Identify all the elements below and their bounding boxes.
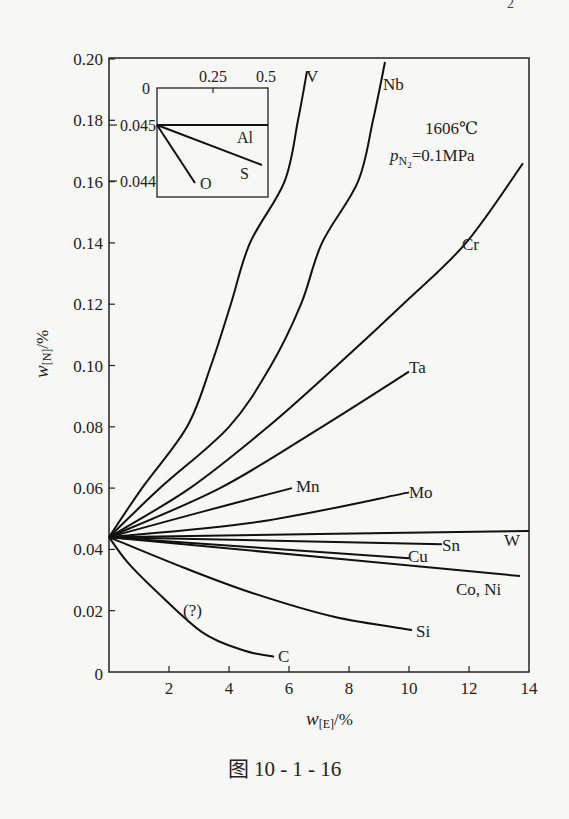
figure-caption: 图 10 - 1 - 16 [0, 752, 569, 782]
x-tick-label: 14 [521, 679, 539, 698]
label-v: V [306, 67, 319, 86]
pressure-sub: N [399, 154, 408, 168]
inset-x-tick-05: 0.5 [256, 68, 276, 85]
y-tick-label: 0.16 [73, 173, 103, 192]
x-tick-label: 2 [165, 679, 174, 698]
x-axis-label: w[E]/% [306, 708, 353, 731]
label-sn: Sn [442, 536, 460, 555]
curve-c [109, 537, 274, 657]
label-cu: Cu [408, 547, 428, 566]
label-si: Si [416, 622, 430, 641]
y-label-w: w [31, 365, 52, 378]
y-tick-label: 0.08 [73, 418, 103, 437]
y-tick-label: 0.06 [73, 479, 103, 498]
y-label-sub: [N] [40, 349, 54, 366]
x-label-w: w [306, 708, 319, 729]
y-tick-label: 0.10 [73, 357, 103, 376]
y-label-rest: /% [33, 330, 52, 349]
label-mo: Mo [409, 483, 433, 502]
label-c: C [278, 647, 289, 666]
y-tick-label: 0.20 [73, 50, 103, 69]
x-tick-label: 10 [401, 679, 418, 698]
x-tick-label: 12 [461, 679, 478, 698]
label-ta: Ta [409, 358, 426, 377]
inset-x-tick-025: 0.25 [199, 68, 227, 85]
y-tick-label: 0.18 [73, 111, 103, 130]
label-w: W [504, 531, 521, 550]
annotation-temperature: 1606℃ [425, 119, 478, 138]
inset-y-tick-0045: 0.045 [120, 117, 156, 134]
y-axis-label: w[N]/% [31, 330, 54, 378]
curve-mo [109, 492, 409, 537]
inset-chart: 0 0.25 0.5 0.045 0.044 Al S O [109, 68, 276, 197]
origin-label: 0 [95, 665, 104, 684]
x-tick-label: 6 [285, 679, 294, 698]
annotation-pressure: pN2=0.1MPa [389, 146, 475, 170]
y-tick-label: 0.12 [73, 295, 103, 314]
y-tick-label: 0.14 [73, 234, 103, 253]
pressure-p: p [389, 146, 399, 165]
label-coni: Co, Ni [456, 580, 502, 599]
chart: 0.020.040.060.080.100.120.140.160.180.20… [0, 0, 569, 819]
x-label-rest: /% [334, 710, 353, 729]
x-label-sub: [E] [319, 717, 334, 731]
inset-label-al: Al [237, 129, 254, 146]
label-mn: Mn [296, 477, 320, 496]
inset-y-tick-0044: 0.044 [120, 173, 156, 190]
curve-ta [109, 372, 409, 538]
inset-label-o: O [200, 175, 212, 192]
x-tick-label: 4 [225, 679, 234, 698]
inset-label-s: S [240, 165, 249, 182]
label-nb: Nb [383, 75, 404, 94]
pressure-value: =0.1MPa [412, 146, 475, 165]
x-tick-label: 8 [345, 679, 354, 698]
y-tick-label: 0.04 [73, 540, 103, 559]
label-question: (?) [183, 601, 202, 620]
label-cr: Cr [462, 235, 479, 254]
inset-x-tick-0: 0 [142, 80, 150, 97]
x-axis: 2468101214 [165, 666, 538, 698]
y-tick-label: 0.02 [73, 602, 103, 621]
